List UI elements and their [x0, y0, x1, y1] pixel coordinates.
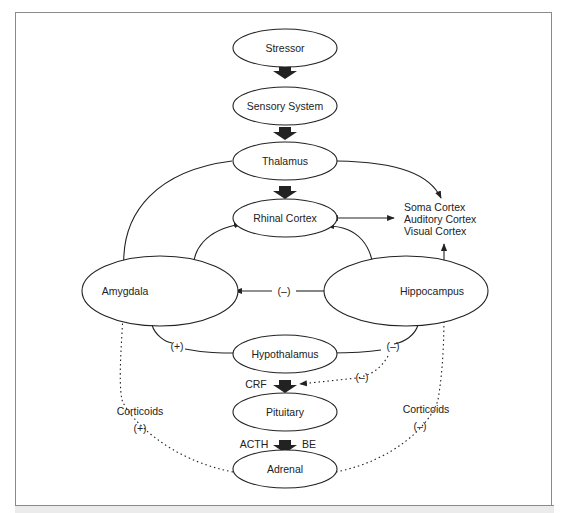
label-hippo-crf-sign: (–): [356, 371, 369, 383]
node-rhinal-cortex: Rhinal Cortex: [233, 199, 337, 237]
edge-thalamus-amygdala: [124, 161, 232, 270]
svg-text:Adrenal: Adrenal: [267, 463, 303, 475]
label-acth: ACTH: [240, 438, 269, 450]
label-corticoids-left-sign: (+): [133, 422, 146, 434]
edge-adrenal-amygdala: [120, 313, 233, 472]
label-corticoids-right: Corticoids: [403, 403, 450, 415]
block-arrow-icon: [273, 380, 297, 393]
svg-text:Hippocampus: Hippocampus: [400, 285, 464, 297]
label-visual-cortex: Visual Cortex: [404, 225, 467, 237]
svg-text:Amygdala: Amygdala: [102, 285, 149, 297]
node-stressor: Stressor: [233, 29, 337, 67]
node-hippocampus: Hippocampus: [324, 256, 488, 326]
node-amygdala: Amygdala: [82, 256, 238, 326]
svg-text:Sensory System: Sensory System: [247, 100, 324, 112]
label-be: BE: [302, 438, 316, 450]
label-corticoids-right-sign: (–): [414, 420, 427, 432]
block-arrow-icon: [273, 66, 297, 79]
label-soma-cortex: Soma Cortex: [404, 201, 466, 213]
label-amyg-hypo-sign: (+): [170, 340, 183, 352]
block-arrow-icon: [273, 186, 297, 199]
svg-text:Pituitary: Pituitary: [266, 406, 305, 418]
svg-text:Hypothalamus: Hypothalamus: [251, 348, 318, 360]
node-adrenal: Adrenal: [233, 450, 337, 488]
edge-hippocampus-hypothalamus: [330, 350, 381, 353]
edge-amyg-hypo-segment: [152, 325, 172, 343]
edge-amygdala-hypothalamus: [185, 349, 240, 353]
block-arrow-icon: [273, 127, 297, 140]
label-hippo-amyg-sign: (–): [278, 285, 291, 297]
svg-text:Stressor: Stressor: [265, 42, 305, 54]
node-pituitary: Pituitary: [233, 393, 337, 431]
svg-text:Rhinal Cortex: Rhinal Cortex: [253, 212, 317, 224]
label-auditory-cortex: Auditory Cortex: [404, 213, 477, 225]
node-hypothalamus: Hypothalamus: [233, 335, 337, 373]
label-crf: CRF: [245, 378, 267, 390]
label-corticoids-left: Corticoids: [117, 405, 164, 417]
node-thalamus: Thalamus: [233, 142, 337, 180]
svg-text:Thalamus: Thalamus: [262, 155, 308, 167]
label-hippo-hypo-sign: (–): [387, 340, 400, 352]
edge-adrenal-hippocampus: [336, 313, 444, 472]
node-sensory-system: Sensory System: [233, 87, 337, 125]
edge-thalamus-cortex: [337, 161, 441, 198]
